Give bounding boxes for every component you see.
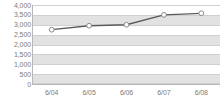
y-tick-label: 2,000 [1,41,31,48]
y-tick-label: 3,000 [1,21,31,28]
y-tick-label: 1,000 [1,61,31,68]
x-tick-label: 6/07 [144,88,184,97]
x-tick-label: 6/05 [69,88,109,97]
x-tick-label: 6/06 [107,88,147,97]
x-tick-label: 6/04 [32,88,72,97]
y-tick-label: 4,000 [1,2,31,9]
y-axis-line [32,5,33,85]
data-point-marker[interactable] [124,22,129,27]
x-tick-label: 6/08 [181,88,221,97]
x-axis-line [32,84,220,85]
y-tick-label: 0 [1,81,31,88]
y-tick-label: 1,500 [1,51,31,58]
line-chart: 05001,0001,5002,0002,5003,0003,5004,000 … [0,0,224,107]
series-layer [33,5,220,84]
x-axis-labels: 6/046/056/066/076/08 [33,88,220,102]
data-point-marker[interactable] [162,12,167,17]
y-tick-label: 2,500 [1,31,31,38]
data-point-marker[interactable] [49,27,54,32]
plot-area [33,5,220,84]
data-point-marker[interactable] [87,23,92,28]
data-point-marker[interactable] [199,11,204,16]
y-tick-label: 3,500 [1,11,31,18]
y-tick-label: 500 [1,71,31,78]
y-axis-labels: 05001,0001,5002,0002,5003,0003,5004,000 [0,0,31,107]
